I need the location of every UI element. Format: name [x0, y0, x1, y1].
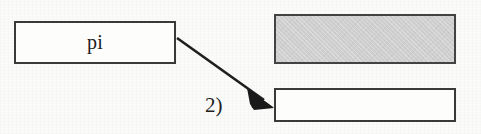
node-box-pi[interactable]: pi [14, 21, 176, 64]
node-box-empty[interactable] [274, 88, 456, 122]
arrow-connector-icon [177, 38, 274, 110]
edge-label-step-2: 2) [205, 95, 223, 116]
diagram-canvas: pi 2) [0, 0, 481, 134]
node-box-pi-label: pi [87, 32, 103, 52]
node-box-shaded[interactable] [274, 14, 456, 64]
